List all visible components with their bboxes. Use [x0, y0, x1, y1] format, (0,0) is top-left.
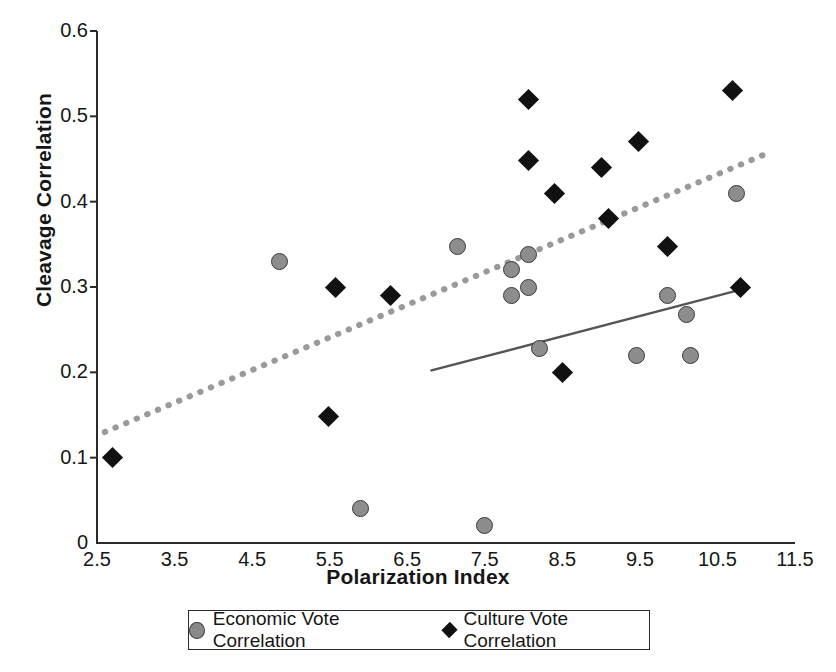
x-tick-label: 2.5 — [62, 549, 132, 569]
legend-item-culture: Culture Vote Correlation — [444, 608, 649, 652]
x-tick-label: 6.5 — [372, 549, 442, 569]
x-tick-label: 10.5 — [682, 549, 752, 569]
data-point-economic — [520, 279, 537, 296]
data-point-economic — [271, 253, 288, 270]
legend-label-culture: Culture Vote Correlation — [463, 608, 649, 652]
data-point-economic — [531, 340, 548, 357]
data-point-economic — [728, 185, 745, 202]
plot-svg — [0, 0, 836, 600]
data-point-economic — [659, 287, 676, 304]
data-point-economic — [682, 347, 699, 364]
diamond-marker-icon — [442, 622, 458, 638]
x-tick-label: 4.5 — [217, 549, 287, 569]
chart-figure: Cleavage Correlation 00.10.20.30.40.50.6… — [0, 0, 836, 672]
x-tick-label: 9.5 — [605, 549, 675, 569]
data-point-economic — [678, 306, 695, 323]
x-tick-label: 5.5 — [295, 549, 365, 569]
x-tick-label: 11.5 — [760, 549, 830, 569]
data-point-economic — [628, 347, 645, 364]
legend-label-economic: Economic Vote Correlation — [213, 608, 419, 652]
legend-item-economic: Economic Vote Correlation — [189, 608, 418, 652]
x-tick-label: 7.5 — [450, 549, 520, 569]
x-tick-label: 3.5 — [140, 549, 210, 569]
x-tick-label: 8.5 — [527, 549, 597, 569]
chart-legend: Economic Vote Correlation Culture Vote C… — [188, 610, 650, 650]
plot-area — [0, 0, 836, 600]
data-point-economic — [449, 238, 466, 255]
circle-marker-icon — [189, 622, 205, 639]
data-point-economic — [520, 246, 537, 263]
